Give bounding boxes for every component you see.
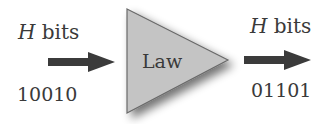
output-arrow-icon	[244, 50, 311, 70]
diagram-canvas: H bits 10010 Law H bits 01101	[0, 0, 326, 124]
input-arrow-icon	[48, 52, 115, 72]
input-unit: bits	[35, 20, 79, 44]
diagram: H bits 10010 Law H bits 01101	[0, 0, 326, 124]
output-unit: bits	[267, 14, 311, 38]
input-symbol: H	[17, 20, 36, 44]
input-value: 10010	[17, 83, 77, 105]
output-symbol: H	[249, 14, 268, 38]
input-label: H bits	[17, 20, 79, 44]
output-value: 01101	[251, 79, 311, 101]
output-label: H bits	[249, 14, 311, 38]
law-label: Law	[142, 50, 183, 72]
